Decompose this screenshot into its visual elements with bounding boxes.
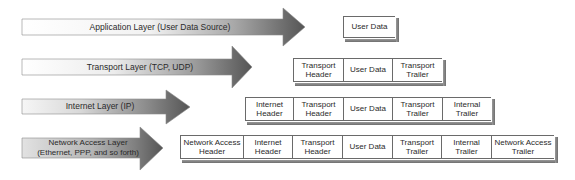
segment-label: Internet (254, 138, 281, 148)
segment-network-access-trailer: Network AccessTrailer (491, 135, 554, 159)
segment-label: User Data (350, 65, 386, 75)
segment-label: Transport (400, 138, 434, 148)
segment-user-data: User Data (343, 16, 395, 38)
segment-transport-header: TransportHeader (293, 58, 343, 82)
segment-label: Transport (302, 100, 336, 110)
segment-transport-trailer: TransportTrailer (392, 135, 441, 159)
box-shadow-right (443, 60, 446, 86)
segment-transport-header: TransportHeader (292, 135, 342, 159)
transport-segment: TransportHeader User Data TransportTrail… (293, 58, 442, 82)
network-access-frame: Network AccessHeader InternetHeader Tran… (180, 135, 554, 159)
segment-label-2: Trailer (401, 70, 435, 80)
box-shadow-right (555, 137, 558, 163)
segment-label-2: Trailer (453, 147, 480, 157)
segment-internal-trailer: InternalTrailer (442, 97, 491, 121)
segment-transport-trailer: TransportTrailer (392, 97, 442, 121)
segment-internet-header: InternetHeader (243, 135, 292, 159)
segment-user-data: User Data (343, 97, 392, 121)
segment-internet-header: InternetHeader (245, 97, 293, 121)
segment-label-2: Trailer (401, 109, 435, 119)
box-shadow-bottom (345, 39, 398, 42)
segment-label: Transport (401, 61, 435, 71)
application-layer-label: Application Layer (User Data Source) (60, 22, 260, 32)
box-shadow-bottom (247, 122, 494, 125)
application-data-unit: User Data (343, 16, 395, 38)
segment-label-2: Header (302, 70, 336, 80)
box-shadow-bottom (182, 160, 557, 163)
segment-transport-header: TransportHeader (293, 97, 343, 121)
segment-label-2: Header (184, 147, 241, 157)
segment-user-data: User Data (343, 58, 392, 82)
network-access-layer-label: Network Access Layer (Ethernet, PPP, and… (18, 138, 158, 158)
application-layer-text: Application Layer (User Data Source) (90, 22, 231, 32)
segment-label-2: Header (254, 147, 281, 157)
segment-label: Internet (256, 100, 283, 110)
segment-label: Transport (301, 138, 335, 148)
transport-layer-text: Transport Layer (TCP, UDP) (87, 62, 193, 72)
internet-layer-text: Internet Layer (IP) (66, 101, 135, 111)
segment-label-2: Header (256, 109, 283, 119)
segment-label-2: Header (301, 147, 335, 157)
segment-label: Internal (454, 100, 481, 110)
segment-label-2: Trailer (400, 147, 434, 157)
segment-label: Transport (401, 100, 435, 110)
segment-label-2: Trailer (454, 109, 481, 119)
network-access-layer-text: Network Access Layer (18, 138, 158, 148)
segment-user-data: User Data (342, 135, 392, 159)
segment-label: Network Access (495, 138, 552, 148)
segment-label: User Data (351, 22, 387, 32)
segment-label: User Data (349, 142, 385, 152)
transport-layer-label: Transport Layer (TCP, UDP) (50, 62, 230, 72)
internet-packet: InternetHeader TransportHeader User Data… (245, 97, 491, 121)
segment-label: User Data (350, 104, 386, 114)
segment-label: Transport (302, 61, 336, 71)
box-shadow-bottom (295, 83, 445, 86)
segment-network-access-header: Network AccessHeader (180, 135, 243, 159)
segment-label-2: Header (302, 109, 336, 119)
segment-label-2: Trailer (495, 147, 552, 157)
internet-layer-label: Internet Layer (IP) (30, 101, 170, 111)
network-access-layer-subtext: (Ethernet, PPP, and so forth) (18, 148, 158, 158)
segment-transport-trailer: TransportTrailer (392, 58, 442, 82)
box-shadow-right (396, 18, 399, 42)
segment-label: Network Access (184, 138, 241, 148)
segment-label: Internal (453, 138, 480, 148)
segment-internal-trailer: InternalTrailer (441, 135, 491, 159)
box-shadow-right (492, 99, 495, 125)
